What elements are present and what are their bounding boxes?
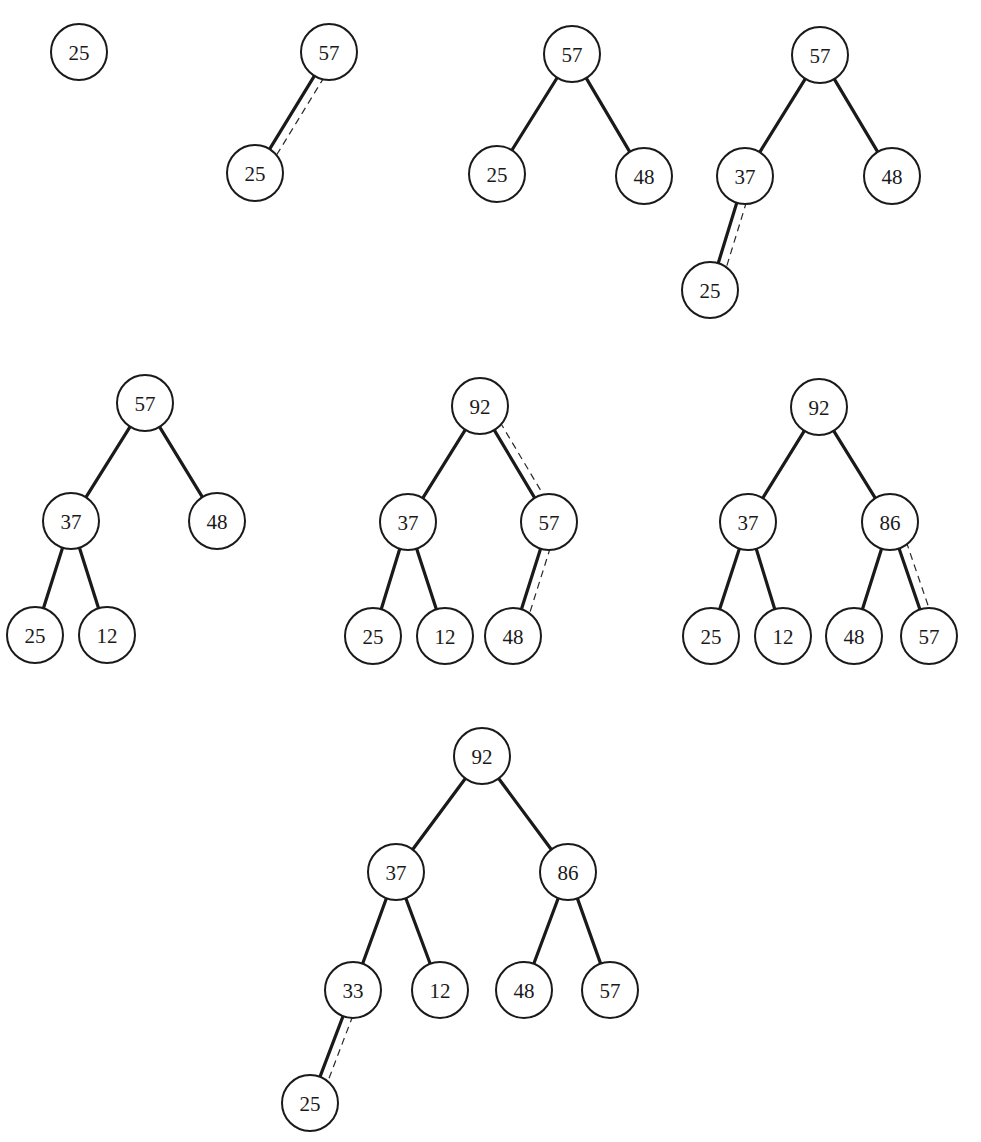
node-value: 57 [319, 41, 340, 65]
tree-node: 48 [616, 148, 672, 204]
tree-edge [862, 549, 881, 610]
tree-node: 48 [864, 148, 920, 204]
swap-indicator-dashed-line [726, 202, 747, 270]
node-value: 57 [562, 43, 583, 67]
tree-edge [406, 898, 430, 964]
tree-edge [720, 549, 740, 610]
tree-edge [586, 78, 630, 152]
tree-node: 92 [454, 728, 510, 784]
node-value: 57 [135, 392, 156, 416]
tree-node: 25 [469, 146, 525, 202]
node-value: 25 [25, 624, 46, 648]
tree-node: 57 [544, 26, 600, 82]
heap-step-3: 572548 [469, 26, 672, 204]
tree-edge [494, 430, 534, 498]
tree-node: 12 [412, 962, 468, 1018]
tree-node: 25 [282, 1075, 338, 1131]
node-value: 57 [810, 44, 831, 68]
tree-node: 92 [452, 378, 508, 434]
tree-node: 25 [51, 24, 107, 80]
tree-edge [760, 79, 805, 152]
tree-node: 25 [227, 145, 283, 201]
tree-node: 48 [485, 608, 541, 664]
tree-node: 48 [496, 962, 552, 1018]
node-value: 25 [363, 625, 384, 649]
tree-node: 57 [521, 494, 577, 550]
edges [270, 76, 325, 157]
node-value: 25 [300, 1092, 321, 1116]
tree-edge [381, 549, 400, 609]
tree-edge [521, 549, 540, 610]
tree-edge [423, 430, 465, 498]
tree-edge [320, 1016, 343, 1077]
tree-edge [763, 431, 805, 498]
node-value: 37 [738, 511, 759, 535]
node-value: 12 [435, 625, 456, 649]
node-value: 48 [514, 979, 535, 1003]
node-value: 12 [430, 979, 451, 1003]
swap-indicator-dashed-line [500, 422, 544, 497]
swap-indicator-dashed-line [275, 77, 324, 157]
node-value: 48 [634, 165, 655, 189]
tree-node: 12 [79, 607, 135, 663]
tree-edge [413, 778, 466, 849]
node-value: 33 [343, 979, 364, 1003]
tree-node: 25 [682, 262, 738, 318]
node-value: 12 [97, 624, 118, 648]
tree-node: 86 [862, 494, 918, 550]
tree-node: 57 [117, 375, 173, 431]
tree-edge [834, 79, 877, 152]
node-value: 57 [600, 979, 621, 1003]
heap-step-8: 9237863312485725 [282, 728, 638, 1131]
tree-node: 33 [325, 962, 381, 1018]
node-value: 25 [245, 162, 266, 186]
tree-edge [834, 431, 876, 498]
tree-node: 25 [7, 607, 63, 663]
tree-edge [363, 898, 387, 963]
tree-node: 12 [417, 608, 473, 664]
node-value: 92 [809, 396, 830, 420]
tree-node: 37 [717, 148, 773, 204]
tree-edge [534, 898, 558, 964]
tree-edge [270, 76, 315, 149]
tree-edge [43, 548, 62, 609]
tree-node: 37 [43, 493, 99, 549]
tree-node: 37 [720, 494, 776, 550]
node-value: 25 [701, 625, 722, 649]
tree-edge [512, 78, 557, 151]
tree-node: 57 [582, 962, 638, 1018]
tree-edge [899, 548, 920, 609]
tree-node: 12 [755, 608, 811, 664]
node-value: 57 [539, 511, 560, 535]
node-value: 92 [472, 745, 493, 769]
tree-node: 57 [792, 27, 848, 83]
node-value: 48 [207, 510, 228, 534]
tree-edge [499, 778, 552, 849]
tree-edge [79, 548, 98, 609]
heap-step-7: 92378625124857 [683, 379, 957, 664]
tree-node: 48 [826, 608, 882, 664]
heap-construction-diagram: 2557255725485737482557374825129237572512… [0, 0, 981, 1142]
node-value: 25 [69, 41, 90, 65]
heap-step-1: 25 [51, 24, 107, 80]
node-value: 48 [503, 625, 524, 649]
heap-step-5: 5737482512 [7, 375, 245, 663]
node-value: 37 [398, 511, 419, 535]
node-value: 37 [386, 861, 407, 885]
node-value: 48 [844, 625, 865, 649]
node-value: 86 [558, 861, 579, 885]
heap-step-2: 5725 [227, 24, 357, 201]
tree-node: 25 [683, 608, 739, 664]
tree-node: 37 [368, 844, 424, 900]
tree-edge [718, 203, 737, 263]
node-value: 92 [470, 395, 491, 419]
heap-step-4: 57374825 [682, 27, 920, 318]
tree-edge [577, 898, 600, 963]
node-value: 37 [735, 165, 756, 189]
node-value: 86 [880, 511, 901, 535]
tree-edge [417, 549, 437, 610]
tree-edge [756, 549, 775, 609]
edges [320, 778, 601, 1083]
tree-node: 92 [791, 379, 847, 435]
node-value: 57 [919, 625, 940, 649]
